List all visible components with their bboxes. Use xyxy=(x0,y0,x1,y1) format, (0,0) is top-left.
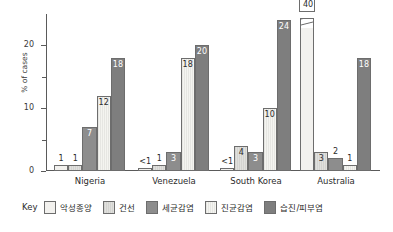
y-tick-label-20: 20 xyxy=(14,41,34,49)
legend-item[interactable]: 세균감염 xyxy=(146,201,194,214)
bar-group: 4032118 xyxy=(300,14,372,171)
bar-value-label: 18 xyxy=(357,61,371,69)
legend-swatch-icon xyxy=(146,201,158,214)
y-tick-label-0: 0 xyxy=(14,167,34,175)
bar[interactable] xyxy=(343,165,357,171)
legend-items: 악성종양건선세균감염진균감염습진/피부염 xyxy=(44,201,334,214)
y-tick-0 xyxy=(41,171,46,172)
bar-group: <1131820 xyxy=(138,14,210,171)
legend-swatch-icon xyxy=(103,201,115,214)
bar[interactable] xyxy=(152,165,166,171)
bar-group: <1431024 xyxy=(220,14,292,171)
y-axis-title: % of cases xyxy=(20,43,29,103)
bar[interactable] xyxy=(195,45,209,171)
plot-area: 1171218<1131820<14310244032118 xyxy=(46,14,380,171)
bar-value-label: 24 xyxy=(277,23,291,31)
x-category-label: Australia xyxy=(286,176,386,186)
bar-chart: % of cases 01020 1171218<1131820<1431024… xyxy=(0,0,393,232)
broken-axis-slash xyxy=(301,19,313,20)
bar[interactable] xyxy=(181,58,195,171)
broken-axis-slash xyxy=(301,21,313,26)
bar[interactable] xyxy=(111,58,125,171)
legend-item-label: 습진/피부염 xyxy=(280,201,323,213)
bar-value-label: 18 xyxy=(111,61,125,69)
broken-axis-marker xyxy=(301,19,313,28)
bar-value-label: 18 xyxy=(181,61,195,69)
legend-item-label: 세균감염 xyxy=(162,201,194,213)
bar-value-label: 4 xyxy=(234,149,248,157)
bar[interactable] xyxy=(68,165,82,171)
legend-title: Key xyxy=(22,202,37,212)
legend-item-label: 악성종양 xyxy=(60,201,92,213)
bar-value-label: 7 xyxy=(82,130,96,138)
legend-item-label: 진균감염 xyxy=(221,201,253,213)
y-tick-label-10: 10 xyxy=(14,104,34,112)
bar-value-label: 20 xyxy=(195,48,209,56)
chart-legend: Key 악성종양건선세균감염진균감염습진/피부염 xyxy=(22,196,382,218)
legend-swatch-icon xyxy=(205,201,217,214)
bar-group: 1171218 xyxy=(54,14,126,171)
legend-item[interactable]: 습진/피부염 xyxy=(264,201,323,214)
bar[interactable] xyxy=(138,168,152,171)
bar-value-label: 40 xyxy=(299,0,315,12)
bar[interactable] xyxy=(277,20,291,171)
bar-value-label: 12 xyxy=(97,99,111,107)
bar[interactable] xyxy=(97,96,111,171)
bar[interactable] xyxy=(300,18,314,171)
bar-value-label: 3 xyxy=(248,155,262,163)
bar[interactable] xyxy=(357,58,371,171)
legend-item[interactable]: 진균감염 xyxy=(205,201,253,214)
legend-swatch-icon xyxy=(264,201,276,214)
bar-value-label: 3 xyxy=(166,155,180,163)
bar[interactable] xyxy=(54,165,68,171)
bar-value-label: 10 xyxy=(263,111,277,119)
bar[interactable] xyxy=(220,168,234,171)
legend-item-label: 건선 xyxy=(119,201,135,213)
legend-swatch-icon xyxy=(44,201,56,214)
legend-item[interactable]: 건선 xyxy=(103,201,135,214)
legend-item[interactable]: 악성종양 xyxy=(44,201,92,214)
